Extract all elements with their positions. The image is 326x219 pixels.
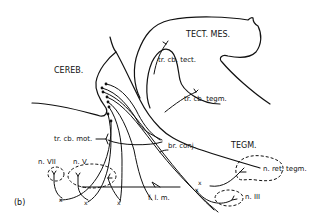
label-br-conj: br. conj.: [168, 142, 196, 150]
label-tectum: TECT. MES.: [185, 30, 230, 39]
ret-tegm-terminal: [210, 168, 246, 186]
label-tr-cb-mot: tr. cb. mot.: [54, 135, 92, 143]
label-n5: n. V: [73, 158, 87, 166]
nucleus-n7-outline: [48, 167, 64, 181]
label-cerebellum: CEREB.: [54, 66, 83, 75]
decussation-mark: x: [117, 199, 121, 206]
tract-cb-mot-pointer: [96, 134, 108, 144]
decussation-mark: x: [195, 186, 199, 193]
label-n3: n. III: [245, 193, 260, 201]
n7-terminal: [52, 171, 62, 198]
cerebellum-outer-contour: [32, 37, 116, 116]
label-n7: n. VII: [38, 158, 56, 166]
label-tr-cb-tect: tr. cb. tect.: [158, 56, 196, 64]
neuroanatomy-diagram: x x x x x CEREB. TECT. MES. TEGM. tr. cb…: [0, 0, 326, 219]
label-tegmentum: TEGM.: [230, 141, 257, 150]
decussation-mark: x: [198, 179, 202, 186]
label-tr-cb-tegm: tr. cb. tegm.: [184, 95, 227, 103]
fiber-to-tectum: [106, 84, 160, 140]
decussation-mark: x: [84, 199, 88, 206]
panel-label: (b): [14, 198, 25, 207]
label-n-ret-tegm: n. ret. tegm.: [263, 165, 307, 173]
fiber-mot-3: [88, 114, 111, 202]
flm-tract: [82, 182, 180, 187]
cerebellum-inner-contour: [116, 52, 260, 168]
label-flm: f. l. m.: [148, 194, 170, 202]
decussation-mark: x: [59, 196, 63, 203]
